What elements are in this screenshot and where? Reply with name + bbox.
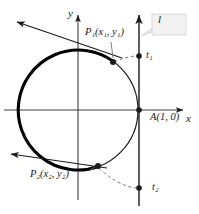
point-t1-label: t₁ [146,50,153,61]
point-t2-dot [136,185,142,191]
dashed-connector-p2-t2 [99,168,136,188]
point-p2-dot [95,163,101,169]
leader-line-p1 [111,42,113,58]
point-p1-label: P₁(x₁, y₁) [85,27,124,38]
geometry-figure: y x A(1, 0) P₁(x₁, y₁) P₂(x₂, y₂) t₁ t₂ … [0,0,199,214]
callout-box-l [141,14,186,36]
point-t1-dot [136,53,142,59]
x-axis-label: x [186,113,191,124]
point-p1-dot [110,59,116,65]
tangent-line-label: l [158,14,161,25]
point-p2-label: P₂(x₂, y₂) [30,169,69,180]
point-a-dot [136,107,142,113]
point-t2-label: t₂ [152,182,159,193]
y-axis-label: y [68,8,73,19]
point-a-label: A(1, 0) [150,112,179,123]
